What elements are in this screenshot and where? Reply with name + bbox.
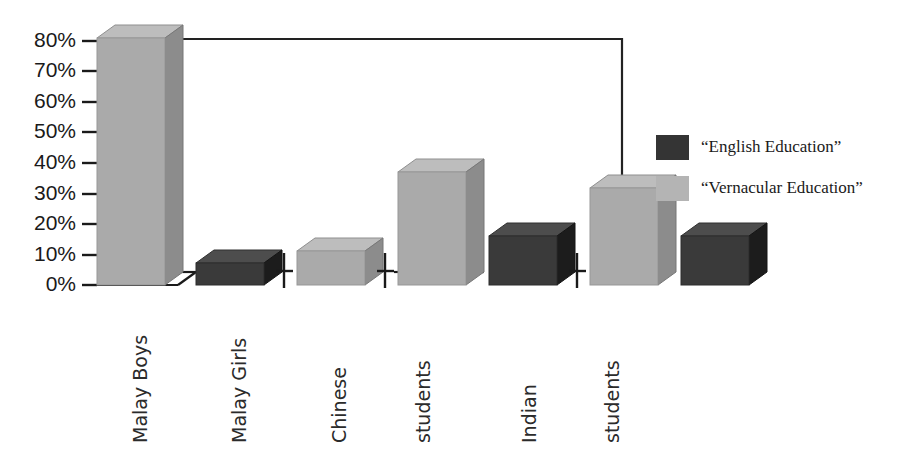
- x-axis-labels: Malay Boys Malay Girls Chinese students …: [129, 335, 623, 443]
- y-tick-label: 20%: [34, 211, 76, 234]
- y-tick-label: 10%: [34, 242, 76, 265]
- legend-swatch-vernacular-education: [656, 176, 689, 201]
- chart-canvas: 80% 70% 60% 50% 40% 30% 20% 10% 0%: [0, 0, 904, 462]
- bar-chinese-vernacular: [398, 159, 484, 285]
- legend-item-english-education[interactable]: “English Education”: [656, 135, 841, 160]
- y-tick-label: 70%: [34, 58, 76, 81]
- legend: “English Education” “Vernacular Educatio…: [656, 135, 863, 201]
- y-axis: 80% 70% 60% 50% 40% 30% 20% 10% 0%: [34, 28, 97, 295]
- y-tick-label: 80%: [34, 28, 76, 51]
- x-axis-label: students: [601, 360, 623, 443]
- y-tick-label: 40%: [34, 150, 76, 173]
- bar-chinese-english: [489, 223, 575, 285]
- bar-indian-english: [681, 223, 767, 285]
- x-axis-label: Malay Girls: [228, 338, 250, 443]
- bar-malay-boys-vernacular: [97, 25, 183, 285]
- legend-label-english-education: “English Education”: [701, 137, 841, 156]
- y-tick-label: 50%: [34, 119, 76, 142]
- legend-item-vernacular-education[interactable]: “Vernacular Education”: [656, 176, 863, 201]
- y-tick-label: 30%: [34, 181, 76, 204]
- bar-malay-girls-english: [196, 250, 282, 285]
- x-axis-label: Malay Boys: [129, 335, 151, 443]
- bar-chart: 80% 70% 60% 50% 40% 30% 20% 10% 0%: [0, 0, 904, 462]
- y-tick-label: 0%: [46, 272, 76, 295]
- legend-label-vernacular-education: “Vernacular Education”: [701, 178, 863, 197]
- y-tick-label: 60%: [34, 89, 76, 112]
- x-axis-label: Indian: [518, 384, 540, 443]
- x-axis-label: Chinese: [328, 367, 350, 443]
- legend-swatch-english-education: [656, 135, 689, 160]
- y-tick-marks: [82, 41, 97, 285]
- x-axis-label: students: [412, 360, 434, 443]
- bar-malay-girls-vernacular: [297, 238, 383, 285]
